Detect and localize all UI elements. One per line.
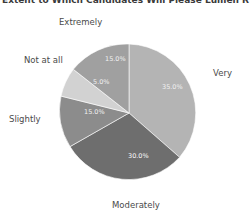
category-label-extremely: Extremely <box>59 17 102 27</box>
pie-chart-svg <box>0 0 251 213</box>
category-label-very: Very <box>213 68 232 78</box>
category-label-not-at-all: Not at all <box>24 55 63 65</box>
pie-chart-figure: Extent to Which Candidates Will Please L… <box>0 0 251 213</box>
value-label-slightly: 15.0% <box>84 108 105 116</box>
value-label-very: 35.0% <box>162 83 183 91</box>
category-label-moderately: Moderately <box>112 200 160 210</box>
value-label-extremely: 15.0% <box>105 55 126 63</box>
value-label-moderately: 30.0% <box>128 152 149 160</box>
value-label-not-at-all: 5.0% <box>93 78 110 86</box>
category-label-slightly: Slightly <box>9 114 41 124</box>
